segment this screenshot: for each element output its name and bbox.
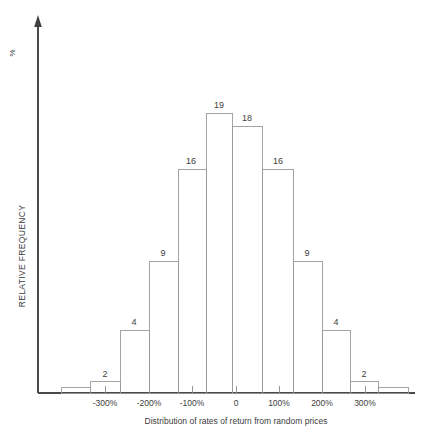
bar-value-label: 19 xyxy=(214,100,224,110)
x-axis-ticks xyxy=(105,386,365,393)
histogram-bar[interactable] xyxy=(178,169,206,393)
x-axis-tick-label: 200% xyxy=(311,398,333,408)
x-axis-tick-label: -200% xyxy=(137,398,162,408)
y-axis-title: RELATIVE FREQUENCY xyxy=(17,205,27,308)
histogram-bar[interactable] xyxy=(61,387,90,393)
bar-value-labels: 2 4 9 16 19 18 16 9 4 2 xyxy=(102,100,366,379)
histogram-bar[interactable] xyxy=(120,330,149,393)
x-axis-tick-label: 100% xyxy=(268,398,290,408)
bar-value-label: 4 xyxy=(333,317,338,327)
x-axis-tick-label: 0 xyxy=(234,398,239,408)
histogram-bar[interactable] xyxy=(262,169,293,393)
chart-canvas: 2 4 9 16 19 18 16 9 4 2 -300% -200% -100… xyxy=(0,0,432,446)
y-axis-unit-label: % xyxy=(8,49,17,56)
bar-value-label: 4 xyxy=(131,317,136,327)
histogram-bar[interactable] xyxy=(322,330,350,393)
x-axis-tick-label: 300% xyxy=(354,398,376,408)
histogram-bars xyxy=(61,113,408,393)
bar-value-label: 9 xyxy=(160,248,165,258)
x-axis-title: Distribution of rates of return from ran… xyxy=(145,416,328,426)
bar-value-label: 2 xyxy=(361,369,366,379)
histogram-bar[interactable] xyxy=(206,113,232,393)
bar-value-label: 18 xyxy=(242,113,252,123)
histogram-chart: 2 4 9 16 19 18 16 9 4 2 -300% -200% -100… xyxy=(0,0,432,446)
histogram-bar[interactable] xyxy=(149,261,178,393)
bar-value-label: 2 xyxy=(102,369,107,379)
x-axis-tick-label: -300% xyxy=(93,398,118,408)
histogram-bar[interactable] xyxy=(232,126,262,393)
x-axis-tick-label: -100% xyxy=(180,398,205,408)
x-axis-tick-labels: -300% -200% -100% 0 100% 200% 300% xyxy=(93,398,377,408)
y-axis-arrow-icon xyxy=(34,15,42,27)
histogram-bar[interactable] xyxy=(350,381,378,393)
bar-value-label: 9 xyxy=(304,248,309,258)
histogram-bar[interactable] xyxy=(378,387,408,393)
histogram-bar[interactable] xyxy=(293,261,322,393)
bar-value-label: 16 xyxy=(273,156,283,166)
bar-value-label: 16 xyxy=(186,156,196,166)
